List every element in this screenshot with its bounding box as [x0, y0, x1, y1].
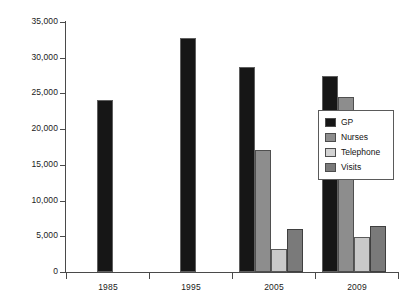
legend-item-label: GP	[341, 118, 353, 127]
y-axis-tick-label: 10,000	[10, 196, 58, 205]
y-axis-tick-label: 20,000	[10, 124, 58, 133]
y-axis-tick-label: 0	[10, 267, 58, 276]
bar-telephone-2009	[354, 237, 370, 272]
x-axis-tick	[398, 273, 399, 279]
y-axis-tick-label-wrap: 0	[0, 267, 58, 277]
x-axis-tick	[315, 273, 316, 279]
legend-swatch-icon	[325, 148, 336, 157]
legend-item-nurses[interactable]: Nurses	[325, 131, 388, 144]
bar-telephone-2005	[271, 249, 287, 272]
legend-swatch-icon	[325, 133, 336, 142]
legend-item-visits[interactable]: Visits	[325, 161, 388, 174]
bar-visits-2009	[370, 226, 386, 272]
x-axis-tick	[232, 273, 233, 279]
x-axis-tick	[149, 273, 150, 279]
y-axis-tick-label: 25,000	[10, 88, 58, 97]
y-axis-tick-label: 35,000	[10, 17, 58, 26]
y-axis-tick-label-wrap: 35,000	[0, 17, 58, 27]
x-axis-tick	[66, 273, 67, 279]
bar-gp-1985	[97, 100, 113, 272]
x-axis-tick-label: 1995	[161, 283, 221, 292]
x-axis-tick-label: 2009	[327, 283, 387, 292]
legend-swatch-icon	[325, 163, 336, 172]
legend-item-label: Nurses	[341, 133, 368, 142]
legend-item-gp[interactable]: GP	[325, 116, 388, 129]
y-axis-tick-label: 15,000	[10, 160, 58, 169]
y-axis-tick-label-wrap: 15,000	[0, 160, 58, 170]
y-axis-tick-label: 30,000	[10, 53, 58, 62]
bar-visits-2005	[287, 229, 303, 272]
bar-chart: 05,00010,00015,00020,00025,00030,00035,0…	[0, 0, 416, 308]
chart-legend: GPNursesTelephoneVisits	[318, 110, 394, 180]
y-axis-tick-label-wrap: 20,000	[0, 124, 58, 134]
y-axis-tick-label-wrap: 5,000	[0, 231, 58, 241]
bar-gp-1995	[180, 38, 196, 272]
legend-item-label: Telephone	[341, 148, 380, 157]
bar-gp-2005	[239, 67, 255, 272]
y-axis-tick-label-wrap: 30,000	[0, 53, 58, 63]
bar-nurses-2005	[255, 150, 271, 272]
y-axis-tick-label: 5,000	[10, 231, 58, 240]
legend-swatch-icon	[325, 118, 336, 127]
y-axis-tick-label-wrap: 10,000	[0, 196, 58, 206]
legend-item-telephone[interactable]: Telephone	[325, 146, 388, 159]
x-axis-tick-label: 1985	[78, 283, 138, 292]
y-axis-tick-label-wrap: 25,000	[0, 88, 58, 98]
x-axis-tick-label: 2005	[244, 283, 304, 292]
legend-item-label: Visits	[341, 163, 361, 172]
